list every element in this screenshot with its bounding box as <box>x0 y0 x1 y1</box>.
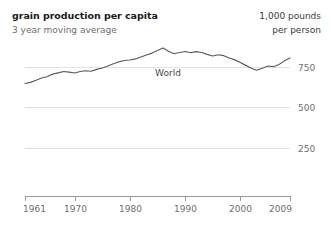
series-group <box>25 48 290 84</box>
y-axis-tick-label: 250 <box>298 144 315 154</box>
y-axis-tick-label: 500 <box>298 103 315 113</box>
series-line-world <box>25 48 290 84</box>
x-axis-tick-label: 1961 <box>23 204 46 214</box>
y-axis-tick-label: 750 <box>298 63 315 73</box>
series-label-world: World <box>155 68 181 78</box>
y-axis-labels-group: 250500750 <box>298 63 315 154</box>
series-label-group: World <box>155 68 181 78</box>
x-axis-tick-label: 1970 <box>64 204 87 214</box>
chart-container: grain production per capita 3 year movin… <box>0 0 331 236</box>
x-axis-labels-group: 196119701980199020002009 <box>23 204 292 214</box>
x-axis-tick-label: 1980 <box>119 204 142 214</box>
x-axis-tick-label: 1990 <box>174 204 197 214</box>
plot-area: 250500750 196119701980199020002009 World <box>0 0 331 236</box>
chart-svg: 250500750 196119701980199020002009 World <box>0 0 331 236</box>
x-axis-line <box>25 197 290 201</box>
x-axis-tick-label: 2009 <box>269 204 292 214</box>
x-axis-group <box>25 197 290 201</box>
x-axis-tick-label: 2000 <box>229 204 252 214</box>
gridlines-group <box>25 68 290 149</box>
